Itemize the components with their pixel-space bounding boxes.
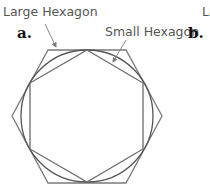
large-hexagon [12, 50, 162, 183]
hexagon-diagram [0, 0, 210, 189]
small-hexagon [30, 50, 143, 182]
circle [21, 50, 153, 182]
large-hexagon-arrow [45, 24, 56, 47]
